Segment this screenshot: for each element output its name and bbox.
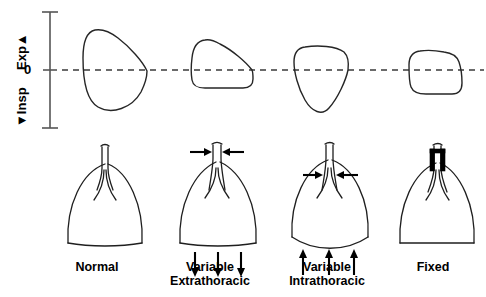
arrow-up-3 <box>350 249 358 275</box>
flow-volume-loop-variable-extrathoracic <box>191 40 253 88</box>
arrow-inward-right <box>222 148 244 156</box>
arrow-inward-right <box>336 171 358 179</box>
arrow-up-2 <box>325 249 333 275</box>
thorax-variable-intrathoracic <box>292 143 368 276</box>
flow-volume-loop-normal <box>83 30 147 111</box>
arrow-down-3 <box>237 252 245 277</box>
thorax-normal <box>68 145 142 247</box>
arrow-up-1 <box>299 249 307 275</box>
arrow-down-2 <box>214 252 222 277</box>
flow-volume-loop-variable-intrathoracic <box>294 46 348 112</box>
y-axis-bracket <box>42 12 58 128</box>
flow-volume-loop-figure: Exp▲ 0 ▼Insp Normal Variable Extrathorac… <box>0 0 486 297</box>
thorax-fixed <box>400 144 474 244</box>
arrow-inward-left <box>190 148 212 156</box>
flow-volume-loop-fixed <box>409 50 462 94</box>
thorax-variable-extrathoracic <box>180 143 256 278</box>
arrow-down-1 <box>191 252 199 277</box>
fixed-obstruction-bar-top <box>430 149 445 153</box>
